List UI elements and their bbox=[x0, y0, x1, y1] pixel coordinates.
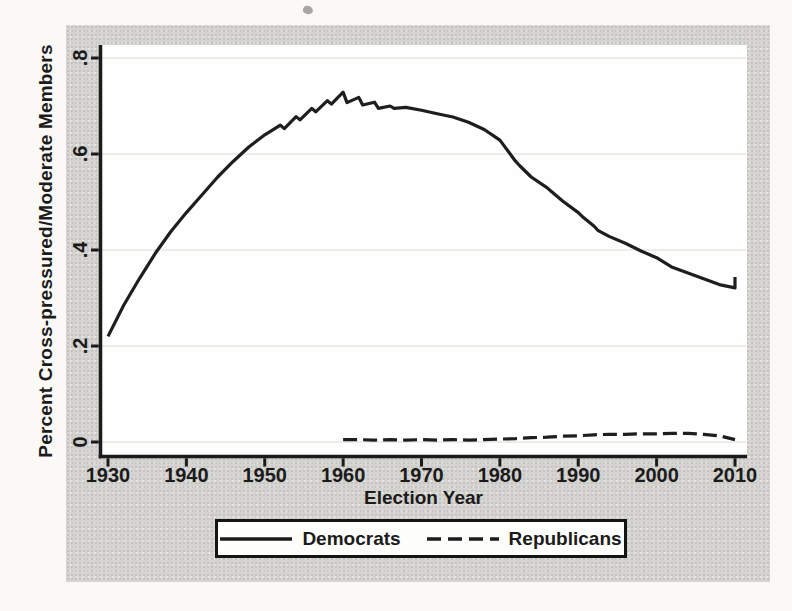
x-tick-label: 1960 bbox=[321, 464, 366, 486]
y-tick-label: .6 bbox=[69, 146, 91, 163]
series-line-republicans bbox=[343, 433, 735, 440]
legend-label-republicans: Republicans bbox=[509, 528, 622, 550]
legend: Democrats Republicans bbox=[215, 519, 627, 558]
republicans-line-sample bbox=[427, 535, 499, 543]
legend-item-democrats: Democrats bbox=[220, 528, 400, 550]
y-axis-title: Percent Cross-pressured/Moderate Members bbox=[35, 44, 57, 457]
page: 0.2.4.6.81930194019501960197019801990200… bbox=[0, 0, 792, 611]
x-tick-label: 1930 bbox=[86, 464, 131, 486]
x-tick-label: 1990 bbox=[556, 464, 601, 486]
legend-label-democrats: Democrats bbox=[302, 528, 400, 550]
x-tick-label: 1970 bbox=[399, 464, 444, 486]
y-tick-label: 0 bbox=[69, 436, 91, 447]
series-line-democrats bbox=[108, 92, 735, 336]
x-axis-title: Election Year bbox=[100, 487, 747, 509]
x-tick-label: 1980 bbox=[478, 464, 523, 486]
x-tick-label: 1940 bbox=[164, 464, 209, 486]
democrats-line-sample bbox=[220, 535, 292, 543]
legend-item-republicans: Republicans bbox=[427, 528, 622, 550]
x-tick-label: 2000 bbox=[634, 464, 679, 486]
y-tick-label: .4 bbox=[69, 241, 91, 259]
y-tick-label: .8 bbox=[69, 50, 91, 67]
x-tick-label: 2010 bbox=[713, 464, 758, 486]
x-tick-label: 1950 bbox=[243, 464, 288, 486]
y-tick-label: .2 bbox=[69, 338, 91, 355]
